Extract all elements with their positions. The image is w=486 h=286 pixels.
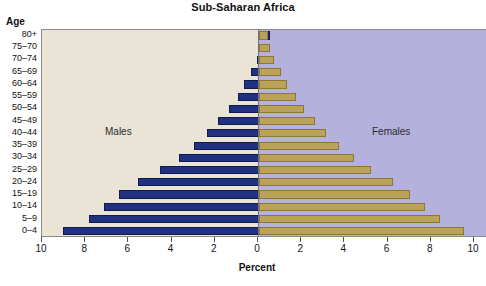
y-axis-tick-label: 0–4 <box>22 225 37 237</box>
bar-female <box>259 80 287 88</box>
bar-female <box>259 31 268 39</box>
bar-female <box>259 190 410 198</box>
bar-male <box>104 203 270 211</box>
x-axis-tick-label: 2 <box>211 243 217 254</box>
y-axis-tick-label: 55–59 <box>12 90 37 102</box>
x-axis-tick-mark <box>387 237 388 242</box>
y-axis-tick-label: 65–69 <box>12 66 37 78</box>
males-panel-label: Males <box>105 126 132 137</box>
bar-row <box>42 201 486 213</box>
bar-female <box>259 117 315 125</box>
x-axis-tick-mark <box>300 237 301 242</box>
bar-male <box>138 178 270 186</box>
bar-female <box>259 105 304 113</box>
y-axis-tick-label: 60–64 <box>12 78 37 90</box>
bar-female <box>259 56 274 64</box>
x-axis-tick-label: 10 <box>35 243 46 254</box>
bar-row <box>42 79 486 91</box>
x-axis-tick-mark <box>84 237 85 242</box>
bar-female <box>259 178 393 186</box>
x-axis-tick-label: 6 <box>384 243 390 254</box>
x-axis-tick-label: 10 <box>467 243 478 254</box>
x-axis-tick-label: 2 <box>297 243 303 254</box>
bar-row <box>42 140 486 152</box>
bar-female <box>259 68 281 76</box>
bar-female <box>259 129 326 137</box>
bar-row <box>42 189 486 201</box>
y-axis-tick-label: 25–29 <box>12 164 37 176</box>
y-axis-tick-label: 80+ <box>22 29 37 41</box>
x-axis-tick-mark <box>41 237 42 242</box>
x-axis-tick-label: 4 <box>341 243 347 254</box>
bar-row <box>42 54 486 66</box>
females-panel-label: Females <box>372 126 410 137</box>
bar-male <box>160 166 270 174</box>
y-axis-tick-label: 45–49 <box>12 115 37 127</box>
y-axis-tick-label: 30–34 <box>12 151 37 163</box>
bar-row <box>42 165 486 177</box>
y-axis-tick-label: 75–70 <box>12 41 37 53</box>
population-pyramid-chart: Sub-Saharan Africa Age 80+75–7070–7465–6… <box>0 0 486 286</box>
bar-row <box>42 30 486 42</box>
x-axis-tick-label: 6 <box>125 243 131 254</box>
bar-row <box>42 103 486 115</box>
x-axis-tick-mark <box>257 237 258 242</box>
x-axis-tick-labels: 1086420246810 <box>41 243 486 257</box>
bar-row <box>42 67 486 79</box>
x-axis-tick-mark <box>171 237 172 242</box>
x-axis-tick-mark <box>430 237 431 242</box>
y-axis-title: Age <box>6 16 25 27</box>
x-axis-tick-mark <box>343 237 344 242</box>
x-axis-tick-mark <box>473 237 474 242</box>
bar-female <box>259 227 464 235</box>
y-axis-tick-label: 20–24 <box>12 176 37 188</box>
bar-female <box>259 142 339 150</box>
x-axis-tick-label: 8 <box>427 243 433 254</box>
y-axis-tick-label: 70–74 <box>12 53 37 65</box>
bar-female <box>259 44 270 52</box>
bar-female <box>259 166 371 174</box>
y-axis-tick-label: 40–44 <box>12 127 37 139</box>
bar-male <box>63 227 270 235</box>
bar-male <box>89 215 270 223</box>
bar-female <box>259 215 440 223</box>
bar-male <box>179 154 270 162</box>
y-axis-tick-labels: 80+75–7070–7465–6960–6455–5950–5445–4940… <box>0 29 39 237</box>
chart-title: Sub-Saharan Africa <box>0 1 486 13</box>
x-axis-title: Percent <box>41 262 473 273</box>
bar-row <box>42 226 486 237</box>
y-axis-tick-label: 50–54 <box>12 102 37 114</box>
plot-area: Males Females <box>41 29 486 237</box>
bar-female <box>259 93 296 101</box>
y-axis-tick-label: 15–19 <box>12 188 37 200</box>
bar-male <box>119 190 270 198</box>
x-axis-tick-mark <box>127 237 128 242</box>
x-axis-tick-mark <box>214 237 215 242</box>
y-axis-tick-label: 5–9 <box>22 213 37 225</box>
x-axis-tick-label: 8 <box>81 243 87 254</box>
bar-row <box>42 177 486 189</box>
y-axis-tick-label: 35–39 <box>12 139 37 151</box>
center-zero-axis <box>258 30 259 236</box>
bar-row <box>42 42 486 54</box>
bar-row <box>42 214 486 226</box>
bar-row <box>42 152 486 164</box>
x-axis-tick-label: 0 <box>254 243 260 254</box>
y-axis-tick-label: 10–14 <box>12 200 37 212</box>
bar-female <box>259 203 425 211</box>
bar-female <box>259 154 354 162</box>
bar-row <box>42 91 486 103</box>
x-axis-tick-label: 4 <box>168 243 174 254</box>
